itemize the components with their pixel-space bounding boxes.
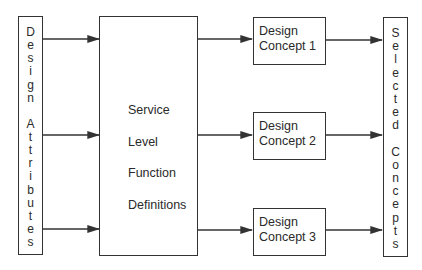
design-concept-2-box: Design Concept 2 — [253, 112, 326, 160]
center-block-label: Service Level Function Definitions — [128, 95, 186, 221]
selected-concepts-block: S e l e c t e d C o n c e p t s — [383, 17, 408, 257]
connector-arrows — [0, 0, 422, 270]
design-concept-3-box: Design Concept 3 — [253, 208, 326, 256]
design-attributes-block: D e s i g n A t t r i b u t e s — [18, 16, 43, 255]
selected-concepts-label: S e l e c t e d C o n c e p t s — [384, 28, 407, 250]
service-level-function-definitions-block: Service Level Function Definitions — [99, 16, 198, 256]
design-concept-1-box: Design Concept 1 — [253, 17, 326, 65]
design-attributes-label: D e s i g n A t t r i b u t e s — [19, 27, 42, 248]
